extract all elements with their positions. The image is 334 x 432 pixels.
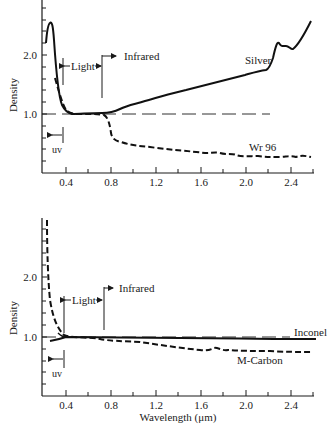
bottom-light-label: Light <box>72 294 96 306</box>
bottom-y-ticks <box>42 229 47 384</box>
top-chart: 2.0 1.0 0.4 0.8 1.2 1.6 2.0 2.4 Density … <box>7 0 314 188</box>
silver-label: Silver <box>245 54 272 66</box>
top-ytick-1: 1.0 <box>23 108 37 120</box>
bottom-ytick-1: 1.0 <box>23 331 37 343</box>
mcarbon-curve <box>47 220 311 352</box>
bottom-y-axis-label: Density <box>7 300 19 335</box>
bottom-x-ticks <box>66 390 313 396</box>
top-xtick-1.6: 1.6 <box>194 176 208 188</box>
bottom-xtick-0.8: 0.8 <box>104 399 118 411</box>
inconel-label: Inconel <box>294 326 327 338</box>
figure-canvas: 2.0 1.0 0.4 0.8 1.2 1.6 2.0 2.4 Density … <box>0 0 334 432</box>
bottom-xtick-1.2: 1.2 <box>149 399 163 411</box>
bottom-infrared-label: Infrared <box>119 282 155 294</box>
bottom-ytick-2: 2.0 <box>23 271 37 283</box>
top-y-ticks <box>42 8 47 161</box>
top-ytick-2: 2.0 <box>23 49 37 61</box>
top-y-axis-label: Density <box>7 77 19 112</box>
bottom-x-axis-label: Wavelength (μm) <box>140 411 217 424</box>
bottom-xtick-0.4: 0.4 <box>59 399 73 411</box>
top-xtick-2.4: 2.4 <box>284 176 298 188</box>
top-xtick-2.0: 2.0 <box>239 176 253 188</box>
wr96-label: Wr 96 <box>249 141 277 153</box>
top-xtick-0.4: 0.4 <box>59 176 73 188</box>
bottom-xtick-1.6: 1.6 <box>194 399 208 411</box>
mcarbon-label: M-Carbon <box>237 354 283 366</box>
top-x-ticks <box>66 167 313 173</box>
top-light-label: Light <box>71 60 95 72</box>
top-uv-label: uv <box>52 144 62 155</box>
top-xtick-0.8: 0.8 <box>104 176 118 188</box>
bottom-xtick-2.0: 2.0 <box>239 399 253 411</box>
bottom-xtick-2.4: 2.4 <box>284 399 298 411</box>
bottom-chart: 2.0 1.0 0.4 0.8 1.2 1.6 2.0 2.4 Density … <box>7 218 327 424</box>
top-infrared-label: Infrared <box>124 50 160 62</box>
bottom-uv-label: uv <box>52 368 62 379</box>
top-xtick-1.2: 1.2 <box>149 176 163 188</box>
